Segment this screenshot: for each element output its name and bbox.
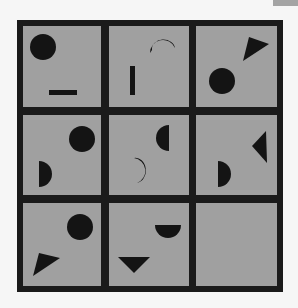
cell-r1-c2[interactable] [196, 115, 277, 195]
cell-r1-c1[interactable] [109, 115, 189, 195]
puzzle-grid [17, 20, 283, 292]
corner-tab [273, 0, 298, 6]
cell-r2-c1[interactable] [109, 203, 189, 286]
cell-r2-c0[interactable] [23, 203, 101, 286]
cell-r0-c2[interactable] [196, 26, 277, 107]
cell-r0-c0[interactable] [23, 26, 101, 107]
cell-r1-c0[interactable] [23, 115, 101, 195]
cell-r0-c1[interactable] [109, 26, 189, 107]
cell-r2-c2-empty[interactable] [196, 203, 277, 286]
